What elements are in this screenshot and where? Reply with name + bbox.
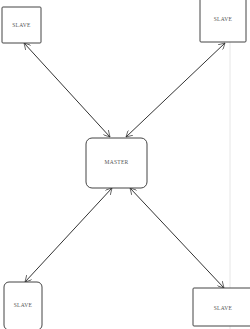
node-master: MASTER (86, 138, 147, 188)
node-label: SLAVE (14, 302, 33, 308)
edge-master-slave-top-right (126, 43, 225, 137)
diagram-canvas: SLAVE SLAVE MASTER SLAVE SLAVE (0, 0, 250, 329)
node-label: SLAVE (12, 22, 31, 28)
node-label: SLAVE (214, 16, 233, 22)
node-slave-bottom-left: SLAVE (4, 282, 42, 329)
master-slave-diagram: SLAVE SLAVE MASTER SLAVE SLAVE (0, 0, 250, 329)
node-slave-bottom-right: SLAVE (193, 288, 250, 326)
node-label: SLAVE (214, 305, 233, 311)
node-label: MASTER (104, 159, 128, 165)
node-slave-top-left: SLAVE (2, 7, 41, 43)
edge-master-slave-top-left (24, 43, 110, 137)
node-slave-top-right: SLAVE (200, 0, 246, 42)
edge-master-slave-bottom-left (25, 188, 112, 282)
edge-master-slave-bottom-right (130, 188, 224, 288)
